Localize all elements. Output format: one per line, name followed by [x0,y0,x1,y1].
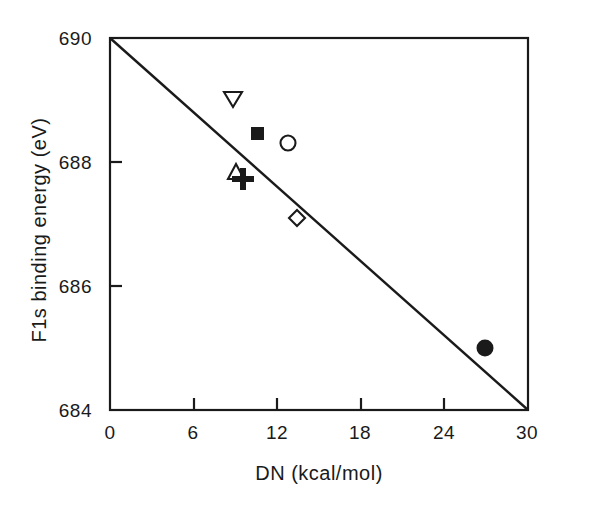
fit-line [110,38,528,410]
data-markers [224,92,494,357]
data-point-triangle-down-open [224,92,242,107]
data-point-circle-open [281,136,296,151]
data-point-plus-filled [232,168,254,190]
data-point-square-filled [251,127,264,140]
axis-ticks [110,162,444,410]
plot-canvas [0,0,593,519]
data-point-circle-filled [477,340,494,357]
chart-figure: F1s binding energy (eV) DN (kcal/mol) 69… [0,0,593,519]
data-point-diamond-open [289,210,305,226]
